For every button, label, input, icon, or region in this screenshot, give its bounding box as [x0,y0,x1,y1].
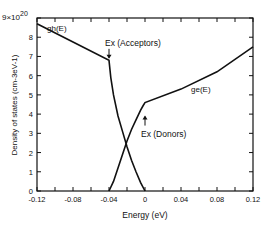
y-tick-label: 4 [29,110,33,119]
y-tick-label: 2 [29,149,33,158]
y-axis-multiplier: 9×1020 [2,10,28,22]
annotation-acceptors: Ex (Acceptors) [105,38,161,48]
x-tick-label: -0.12 [28,195,45,204]
x-tick-label: 0.04 [174,195,189,204]
x-axis-label: Energy (eV) [122,210,168,220]
y-tick-label: 0 [29,187,33,196]
x-tick-label: -0.04 [100,195,117,204]
y-tick-label: 3 [29,129,33,138]
x-tick-label: 0.08 [210,195,225,204]
y-tick-label: 6 [29,72,33,81]
curves [37,24,253,191]
x-tick-label: -0.08 [64,195,81,204]
curve-label: ge(E) [191,85,211,94]
y-tick-label: 7 [29,52,33,61]
density-of-states-chart: -0.12-0.08-0.0400.040.080.12012345678 gh… [0,0,272,226]
curve-label: gh(E) [47,24,67,33]
arrowhead-icon [143,116,148,120]
curve-ghe [37,24,145,191]
annotation-donors: Ex (Donors) [141,129,187,139]
y-tick-label: 1 [29,168,33,177]
x-tick-label: 0.12 [246,195,261,204]
arrowhead-icon [107,55,112,59]
curve-gee [109,47,253,191]
x-tick-label: 0 [143,195,147,204]
y-tick-label: 5 [29,91,33,100]
y-tick-label: 8 [29,33,33,42]
y-axis-label: Density of states (cm-3eV-1) [10,54,19,155]
